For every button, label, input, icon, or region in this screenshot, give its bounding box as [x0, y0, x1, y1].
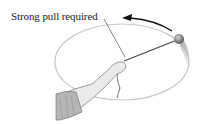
- string: [124, 40, 177, 61]
- arrowhead-icon: [122, 14, 132, 21]
- diagram-canvas: Strong pull required: [0, 0, 209, 124]
- strong-pull-label: Strong pull required: [11, 10, 98, 22]
- ball-icon: [174, 34, 184, 44]
